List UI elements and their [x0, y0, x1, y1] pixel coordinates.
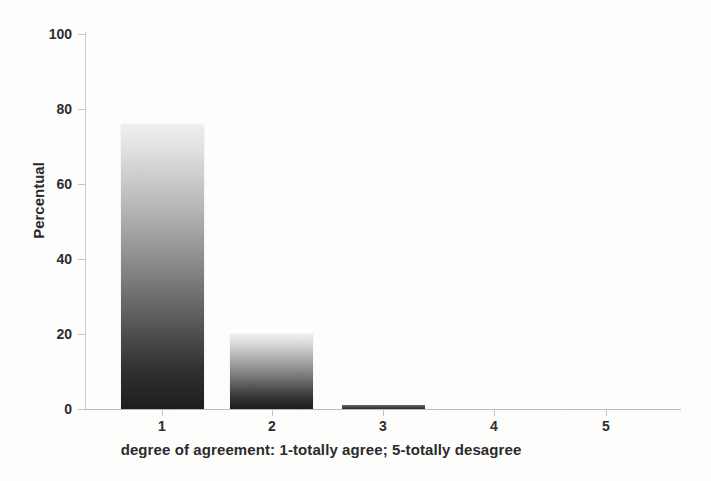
x-tick-mark-5 [606, 410, 607, 416]
x-tick-label-4: 4 [464, 418, 524, 434]
x-tick-label-2: 2 [242, 418, 302, 434]
x-tick-mark-2 [272, 410, 273, 416]
bar-category-1 [121, 124, 204, 409]
x-tick-label-3: 3 [353, 418, 413, 434]
bar-category-2 [230, 334, 313, 409]
bar-series [0, 0, 711, 409]
bar-category-3 [342, 405, 425, 409]
x-axis-title: degree of agreement: 1-totally agree; 5-… [85, 441, 557, 458]
chart-figure: 100 80 60 40 20 0 1 2 3 4 5 degree of ag… [0, 0, 711, 481]
x-tick-label-1: 1 [132, 418, 192, 434]
x-tick-mark-4 [494, 410, 495, 416]
y-axis-title: Percentual [30, 141, 47, 261]
x-tick-mark-1 [162, 410, 163, 416]
x-tick-label-5: 5 [576, 418, 636, 434]
x-tick-mark-3 [383, 410, 384, 416]
